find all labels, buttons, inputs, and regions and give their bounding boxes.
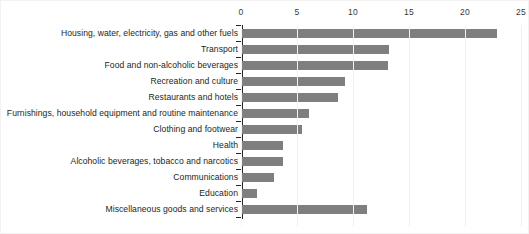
x-tick-label: 25 — [516, 7, 526, 17]
bar[interactable] — [242, 141, 283, 150]
x-gridline — [409, 25, 410, 227]
bar[interactable] — [242, 109, 309, 118]
bar-track — [242, 25, 529, 41]
bar[interactable] — [242, 45, 389, 54]
bar-track — [242, 185, 529, 201]
x-axis-top: 0510152025 — [1, 1, 529, 25]
bar[interactable] — [242, 205, 367, 214]
bar[interactable] — [242, 157, 283, 166]
category-label: Clothing and footwear — [153, 124, 238, 134]
category-label: Restaurants and hotels — [149, 92, 238, 102]
bar-row[interactable]: Furnishings, household equipment and rou… — [1, 105, 529, 121]
category-label: Furnishings, household equipment and rou… — [7, 108, 238, 118]
bar-track — [242, 73, 529, 89]
category-label: Communications — [173, 172, 238, 182]
bar[interactable] — [242, 61, 388, 70]
bar-row[interactable]: Restaurants and hotels — [1, 89, 529, 105]
bar[interactable] — [242, 125, 302, 134]
x-gridline — [241, 25, 242, 227]
category-label: Housing, water, electricity, gas and oth… — [61, 28, 238, 38]
bar-track — [242, 137, 529, 153]
bar-track — [242, 169, 529, 185]
bar-track — [242, 89, 529, 105]
bar[interactable] — [242, 29, 497, 38]
bar-row[interactable]: Housing, water, electricity, gas and oth… — [1, 25, 529, 41]
bar-track — [242, 41, 529, 57]
bar[interactable] — [242, 173, 274, 182]
category-label: Alcoholic beverages, tobacco and narcoti… — [71, 156, 238, 166]
category-label: Health — [213, 140, 238, 150]
bar-track — [242, 57, 529, 73]
bar-row[interactable]: Miscellaneous goods and services — [1, 201, 529, 217]
bar[interactable] — [242, 93, 338, 102]
bar-chart: 0510152025 Housing, water, electricity, … — [0, 0, 529, 234]
x-gridline — [353, 25, 354, 227]
bar-track — [242, 105, 529, 121]
x-tick-label: 5 — [295, 7, 300, 17]
bar-row[interactable]: Education — [1, 185, 529, 201]
x-gridline — [297, 25, 298, 227]
bar-row[interactable]: Health — [1, 137, 529, 153]
bar-row[interactable]: Recreation and culture — [1, 73, 529, 89]
x-gridline — [521, 25, 522, 227]
axis-end-tick — [236, 217, 241, 218]
category-label: Transport — [201, 44, 238, 54]
x-tick-label: 10 — [348, 7, 358, 17]
x-tick-label: 0 — [239, 7, 244, 17]
category-label: Recreation and culture — [150, 76, 238, 86]
category-label: Food and non-alcoholic beverages — [105, 60, 238, 70]
category-label: Education — [199, 188, 238, 198]
bar-row[interactable]: Transport — [1, 41, 529, 57]
x-gridline — [465, 25, 466, 227]
bar-row[interactable]: Communications — [1, 169, 529, 185]
x-tick-label: 15 — [404, 7, 414, 17]
bar-track — [242, 153, 529, 169]
bar[interactable] — [242, 189, 257, 198]
bar-row[interactable]: Alcoholic beverages, tobacco and narcoti… — [1, 153, 529, 169]
category-label: Miscellaneous goods and services — [106, 204, 239, 214]
bar[interactable] — [242, 77, 345, 86]
bar-row[interactable]: Clothing and footwear — [1, 121, 529, 137]
bar-track — [242, 121, 529, 137]
bar-rows: Housing, water, electricity, gas and oth… — [1, 25, 529, 217]
bar-row[interactable]: Food and non-alcoholic beverages — [1, 57, 529, 73]
bar-track — [242, 201, 529, 217]
x-tick-label: 20 — [460, 7, 470, 17]
